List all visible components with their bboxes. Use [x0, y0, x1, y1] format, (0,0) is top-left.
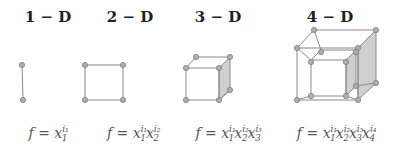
- vertex: [308, 93, 313, 98]
- formula-3d: f = xi₁1xi₂2xi₃3: [173, 124, 283, 143]
- vertex: [227, 87, 232, 92]
- vertex: [353, 49, 358, 54]
- vertex: [343, 93, 348, 98]
- vertex: [216, 65, 221, 70]
- vertex: [308, 59, 313, 64]
- vertex: [343, 59, 348, 64]
- panel-title-3d: 3 − D: [178, 8, 258, 26]
- vertex: [183, 97, 188, 102]
- vertex: [373, 27, 378, 32]
- vertex: [373, 80, 378, 85]
- vertex: [294, 45, 299, 50]
- vertex: [120, 97, 125, 102]
- panel-title-2d: 2 − D: [90, 8, 170, 26]
- formula-4d: f = xi₁1xi₂2xi₃3xi₄4: [281, 124, 391, 143]
- square-2d: [85, 65, 123, 100]
- vertex: [20, 97, 25, 102]
- formula-2d: f = xi₁1xi₂2: [78, 124, 188, 143]
- panel-title-4d: 4 − D: [290, 8, 370, 26]
- vertex: [311, 27, 316, 32]
- vertex: [193, 54, 198, 59]
- vertex: [216, 97, 221, 102]
- vertex: [19, 62, 24, 67]
- vertex: [120, 62, 125, 67]
- vertex: [353, 83, 358, 88]
- vertex: [82, 62, 87, 67]
- cube-3d: [186, 57, 230, 100]
- panel-title-1d: 1 − D: [8, 8, 88, 26]
- tesseract-4d: [297, 30, 376, 100]
- vertex: [355, 97, 360, 102]
- vertex: [183, 65, 188, 70]
- vertex: [82, 97, 87, 102]
- vertex: [227, 54, 232, 59]
- vertex: [318, 49, 323, 54]
- line-segment-1d: [22, 65, 23, 100]
- vertex: [294, 97, 299, 102]
